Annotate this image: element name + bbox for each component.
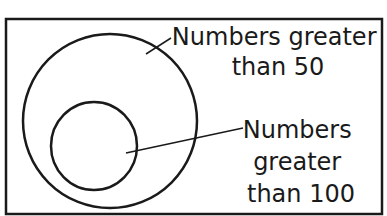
outer-set-label: Numbers greater than 50: [172, 23, 384, 81]
outer-set-label-line-2: than 50: [232, 53, 325, 81]
inner-set-label-line-2: greater: [253, 148, 341, 176]
inner-set-label-line-1: Numbers: [243, 116, 352, 144]
outer-set-label-line-1: Numbers greater: [172, 23, 377, 51]
inner-set-label: Numbers greater than 100: [243, 116, 360, 208]
inner-set-leader-line: [126, 128, 243, 153]
outer-set-leader-line: [146, 38, 171, 54]
outer-set-circle: [23, 34, 197, 208]
inner-set-circle: [51, 102, 137, 190]
venn-diagram: Numbers greater than 50 Numbers greater …: [0, 0, 387, 216]
inner-set-label-line-3: than 100: [247, 180, 355, 208]
